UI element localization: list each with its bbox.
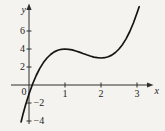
y-tick-label: −2 — [34, 97, 45, 108]
y-tick-label: −4 — [34, 115, 45, 126]
origin-label: 0 — [22, 86, 27, 97]
y-tick-label: 6 — [20, 25, 25, 36]
y-tick-label: 2 — [20, 61, 25, 72]
x-tick-label: 3 — [135, 88, 140, 99]
function-graph-figure: 123 642−2−4 0 x y — [0, 0, 165, 131]
y-axis-arrow-icon — [26, 4, 31, 11]
x-tick-label: 2 — [99, 88, 104, 99]
x-tick-label: 1 — [63, 88, 68, 99]
x-axis-arrow-icon — [147, 82, 154, 87]
y-tick-label: 4 — [20, 43, 25, 54]
function-plot: 123 642−2−4 0 x y — [0, 0, 165, 131]
y-axis-label: y — [21, 4, 27, 15]
x-axis-label: x — [154, 85, 160, 96]
